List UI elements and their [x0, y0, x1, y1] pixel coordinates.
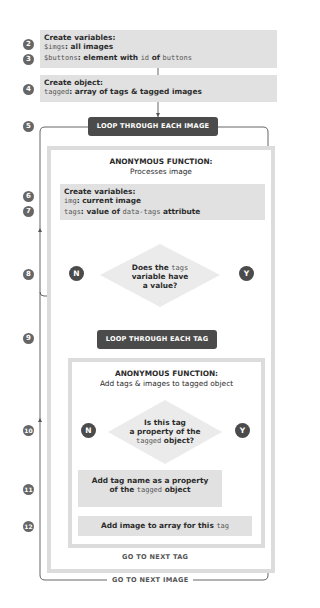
code-tag: tag — [216, 522, 229, 530]
add-image-box: Add image to array for this tag — [78, 516, 252, 536]
add-property-line1: Add tag name as a property — [80, 476, 220, 485]
decision-2-line1: Is this tag — [115, 418, 215, 427]
yes-branch-2: Y — [235, 423, 250, 438]
add-tag-property-box: Add tag name as a property of the tagged… — [78, 470, 222, 507]
decision-2-line3: tagged object? — [115, 436, 215, 446]
code-tagged-add: tagged — [137, 486, 162, 494]
go-to-next-tag-label: GO TO NEXT TAG — [117, 553, 193, 562]
add-image-text: Add image to array for this — [101, 521, 216, 530]
no-branch-2: N — [81, 423, 96, 438]
go-to-next-image-label: GO TO NEXT IMAGE — [107, 576, 193, 585]
code-tagged-q: tagged — [136, 437, 161, 445]
decision-2-line2: a property of the — [115, 427, 215, 436]
